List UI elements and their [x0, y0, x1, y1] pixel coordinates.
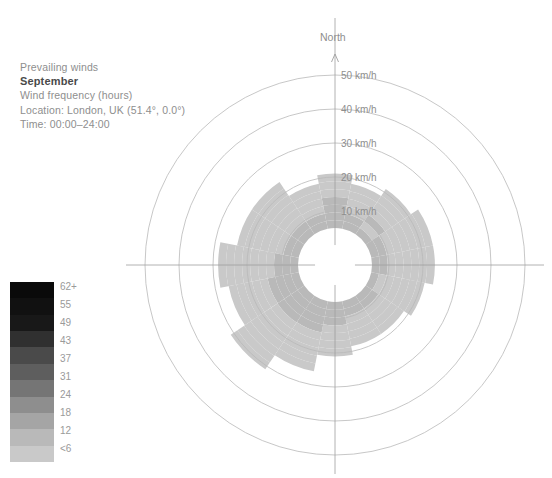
ring-speed-label: 50 km/h	[341, 70, 377, 81]
ring-speed-label: 10 km/h	[341, 206, 377, 217]
ring-speed-label: 40 km/h	[341, 104, 377, 115]
rose-hub	[315, 245, 355, 285]
north-indicator: North	[320, 31, 346, 62]
ring-speed-label: 20 km/h	[341, 172, 377, 183]
wind-rose-hub	[315, 245, 355, 285]
wind-rose-svg: 10 km/h20 km/h30 km/h40 km/h50 km/h Nort…	[0, 0, 552, 478]
wind-rose-chart: 10 km/h20 km/h30 km/h40 km/h50 km/h Nort…	[0, 0, 552, 478]
ring-speed-label: 30 km/h	[341, 138, 377, 149]
north-label: North	[320, 31, 346, 43]
